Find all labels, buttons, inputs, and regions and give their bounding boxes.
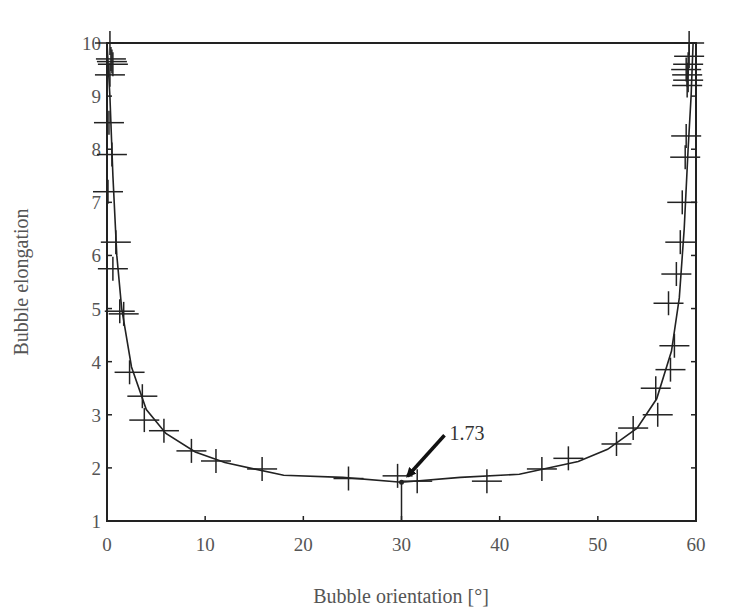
data-point xyxy=(667,190,697,214)
x-tick-label: 10 xyxy=(196,534,215,555)
x-tick-label: 20 xyxy=(294,534,313,555)
x-tick-label: 50 xyxy=(588,534,607,555)
data-markers xyxy=(93,31,704,493)
data-point xyxy=(674,31,704,55)
y-tick-label: 1 xyxy=(92,511,102,532)
data-point xyxy=(101,230,131,254)
x-tick-label: 30 xyxy=(392,534,411,555)
data-point xyxy=(247,457,277,481)
y-tick-label: 4 xyxy=(92,352,102,373)
x-tick-label: 60 xyxy=(687,534,706,555)
data-point xyxy=(94,111,124,135)
data-point xyxy=(95,63,125,87)
data-point xyxy=(641,376,671,400)
data-point xyxy=(661,262,691,286)
y-tick-label: 5 xyxy=(92,299,102,320)
data-point xyxy=(643,403,673,427)
x-tick-label: 0 xyxy=(102,534,112,555)
data-point xyxy=(659,334,689,358)
theory-curve xyxy=(107,43,693,482)
data-point xyxy=(672,63,702,87)
data-point xyxy=(97,50,127,74)
data-point xyxy=(129,408,159,432)
y-tick-label: 9 xyxy=(92,86,102,107)
y-tick-label: 7 xyxy=(92,192,102,213)
data-point xyxy=(402,469,432,493)
data-point xyxy=(105,299,135,323)
data-point xyxy=(98,52,128,76)
y-tick-label: 2 xyxy=(92,458,102,479)
y-tick-label: 8 xyxy=(92,139,102,160)
chart: 010203040506012345678910 1.73 Bubble ori… xyxy=(0,0,746,616)
annotation-label: 1.73 xyxy=(450,422,485,444)
y-axis-label: Bubble elongation xyxy=(10,208,33,355)
data-point xyxy=(201,449,231,473)
data-point xyxy=(97,143,127,167)
data-point xyxy=(655,358,685,382)
annotation: 1.73 xyxy=(399,422,485,521)
data-point xyxy=(109,302,139,326)
data-point xyxy=(333,467,363,491)
data-point xyxy=(115,360,145,384)
data-point xyxy=(665,230,695,254)
data-point xyxy=(98,257,128,281)
y-tick-label: 6 xyxy=(92,245,102,266)
x-axis-label: Bubble orientation [°] xyxy=(313,585,489,607)
axis-ticks: 010203040506012345678910 xyxy=(82,33,706,555)
y-tick-label: 3 xyxy=(92,405,102,426)
data-point xyxy=(472,469,502,493)
x-tick-label: 40 xyxy=(490,534,509,555)
data-point xyxy=(127,384,157,408)
data-point xyxy=(527,457,557,481)
